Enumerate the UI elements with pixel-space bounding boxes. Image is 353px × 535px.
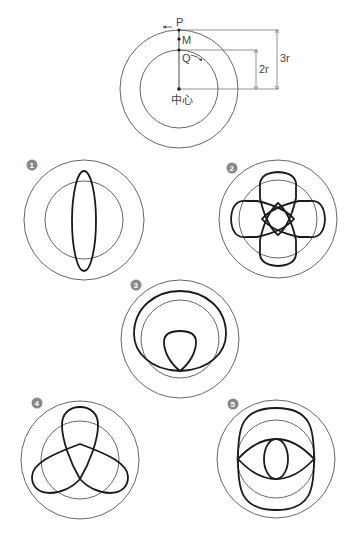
badge-4-number: 4	[35, 399, 40, 408]
outer-circle	[219, 160, 337, 278]
inner-circle	[45, 181, 123, 259]
inner-circle	[239, 180, 317, 258]
double-loop-curve	[238, 408, 314, 510]
pattern-5: 5	[217, 399, 335, 519]
label-2r: 2r	[259, 63, 269, 75]
inner-circle	[141, 300, 219, 378]
cardioid-curve	[134, 291, 226, 371]
inner-circle	[41, 421, 119, 499]
badge-3-number: 3	[134, 281, 139, 290]
point-m	[177, 37, 180, 40]
outer-circle	[217, 400, 335, 518]
pattern-3: 3	[121, 280, 239, 399]
ellipse-curve	[72, 171, 96, 271]
outer-circle	[24, 160, 144, 280]
label-center: 中心	[171, 94, 193, 106]
pattern-2: 2	[219, 160, 337, 278]
badge-1-number: 1	[30, 161, 35, 170]
badge-2-number: 2	[230, 164, 235, 173]
outer-circle	[121, 280, 239, 398]
badge-5-number: 5	[231, 400, 236, 409]
outer-circle	[21, 401, 139, 519]
rosette-curve	[231, 172, 325, 266]
epicycle-diagram-sheet: P M Q 中心 2r 3r 1 2 3 4	[0, 0, 353, 535]
label-m: M	[182, 34, 191, 46]
label-3r: 3r	[280, 52, 290, 64]
inner-circle	[237, 420, 315, 498]
pattern-1: 1	[24, 160, 144, 281]
p-arrowhead-icon	[163, 26, 166, 29]
pattern-4: 4	[21, 398, 139, 520]
label-p: P	[176, 16, 183, 28]
label-q: Q	[182, 52, 191, 64]
main-diagram: P M Q 中心 2r 3r	[120, 16, 290, 148]
